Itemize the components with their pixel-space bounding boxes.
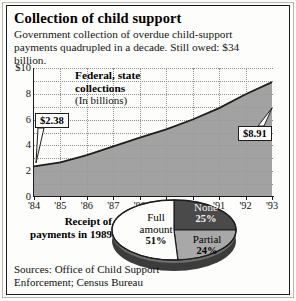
pie-caption-line-2: payments in 1989 [8, 228, 112, 241]
pie-label-full-name-2: amount [126, 223, 186, 235]
y-tick-label: $10 [5, 62, 31, 73]
legend-line-2: collections [75, 82, 180, 95]
pie-caption: Receipt of payments in 1989 [8, 215, 112, 241]
pie-label-partial: Partial 24% [182, 233, 232, 257]
y-tick-label: 4 [5, 139, 31, 150]
page-title: Collection of child support [14, 10, 276, 27]
sources-note: Sources: Office of Child Support Enforce… [14, 263, 254, 289]
pie-label-full: Full amount 51% [126, 211, 186, 247]
y-axis-labels: $1086420 [0, 68, 31, 197]
y-tick-label: 2 [5, 165, 31, 176]
legend-units: (In billions) [75, 94, 180, 107]
x-tick-label: '93 [266, 200, 278, 211]
infographic-panel: Collection of child support Government c… [0, 0, 296, 301]
y-tick-label: 6 [5, 114, 31, 125]
pie-label-none: None 25% [182, 201, 230, 225]
x-tick-label: '85 [54, 200, 66, 211]
pie-label-none-value: 25% [182, 213, 230, 225]
pie-label-full-value: 51% [126, 235, 186, 247]
y-tick-label: 8 [5, 88, 31, 99]
pie-label-partial-name: Partial [182, 233, 232, 245]
pie-caption-line-1: Receipt of [8, 215, 112, 228]
legend-line-1: Federal, state [75, 69, 180, 82]
callout-start-value: $2.38 [35, 113, 69, 128]
pie-label-partial-value: 24% [182, 245, 232, 257]
y-axis [33, 68, 34, 197]
sources-line-1: Sources: Office of Child Support [14, 263, 254, 276]
x-tick-label: '92 [239, 200, 251, 211]
sources-line-2: Enforcement; Census Bureau [14, 276, 254, 289]
callout-end-value: $8.91 [238, 126, 272, 141]
chart-legend: Federal, state collections (In billions) [75, 69, 180, 107]
pie-label-full-name-1: Full [126, 211, 186, 223]
x-tick-label: '86 [81, 200, 93, 211]
subtitle: Government collection of overdue child-s… [14, 28, 274, 67]
x-tick-label: '84 [28, 200, 40, 211]
pie-label-none-name: None [182, 201, 230, 213]
